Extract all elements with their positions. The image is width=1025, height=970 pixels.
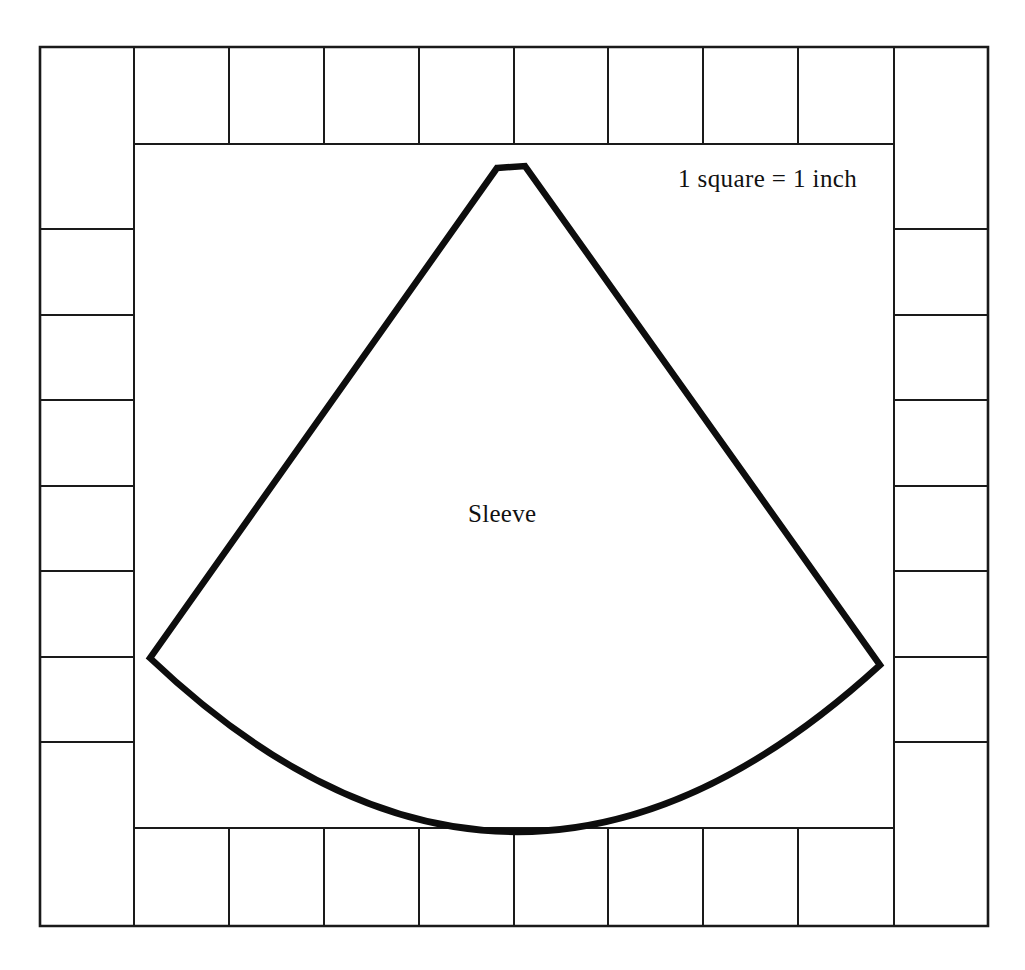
grid-right-column-dividers — [894, 229, 988, 742]
scale-note-label: 1 square = 1 inch — [678, 165, 857, 193]
inner-border-rect — [134, 144, 894, 828]
grid-left-column-dividers — [40, 229, 134, 742]
pattern-figure-page: 1 square = 1 inch Sleeve — [0, 0, 1025, 970]
sleeve-outline-path — [150, 166, 880, 832]
pattern-figure-canvas — [0, 0, 1025, 970]
grid-inner-frame — [134, 144, 894, 828]
grid-bottom-row-dividers — [134, 828, 894, 926]
sleeve-piece-label: Sleeve — [468, 500, 536, 528]
grid-top-row-dividers — [134, 47, 894, 144]
sleeve-pattern-outline — [150, 166, 880, 832]
